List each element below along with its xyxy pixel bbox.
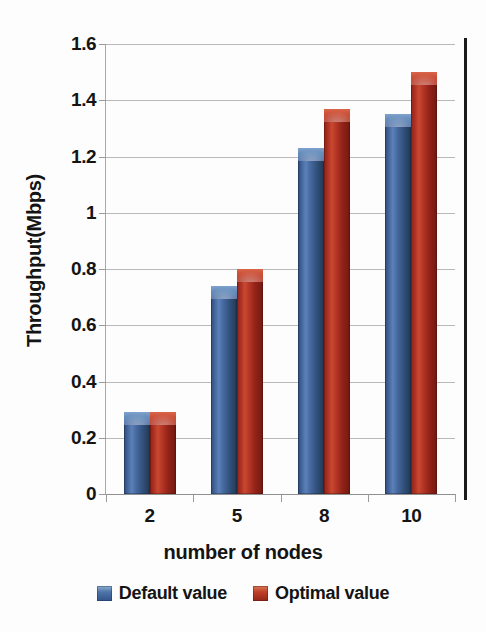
legend-label-default-value: Default value [119, 583, 227, 604]
bar-group [385, 44, 437, 494]
y-axis-tick-label: 1.6 [42, 33, 96, 55]
bar-body [298, 148, 324, 494]
y-axis-tick-label: 1.2 [42, 146, 96, 168]
bar-group [298, 44, 350, 494]
bar-top-cap [150, 412, 176, 425]
bar-default-value-10[interactable] [385, 114, 411, 494]
y-axis-tick-label: 0.2 [42, 427, 96, 449]
y-axis-tick-label: 0.4 [42, 371, 96, 393]
x-axis-tick-label: 8 [319, 505, 329, 527]
x-axis-title: number of nodes [0, 541, 486, 564]
bar-optimal-value-8[interactable] [324, 109, 350, 494]
y-axis-tick-label: 0.8 [42, 258, 96, 280]
y-axis-tick-mark [99, 325, 106, 326]
bar-body [211, 286, 237, 494]
bar-top-cap [385, 114, 411, 127]
legend-item-optimal-value[interactable]: Optimal value [253, 583, 389, 604]
legend-item-default-value[interactable]: Default value [97, 583, 227, 604]
y-axis-tick-label: 0.6 [42, 314, 96, 336]
y-axis-tick-label: 0 [42, 483, 96, 505]
bar-top-cap [124, 412, 150, 425]
bar-body [411, 72, 437, 494]
legend-swatch-optimal-value [253, 586, 268, 601]
chart-legend: Default value Optimal value [0, 583, 486, 604]
x-axis-tick-label: 2 [145, 505, 155, 527]
y-axis-tick-label: 1 [42, 202, 96, 224]
bar-default-value-5[interactable] [211, 286, 237, 494]
bar-optimal-value-2[interactable] [150, 412, 176, 494]
chart-figure: Throughput(Mbps) 00.20.40.60.811.21.41.6… [0, 0, 486, 632]
bar-top-cap [324, 109, 350, 122]
bar-top-cap [411, 72, 437, 85]
y-axis-tick-mark [99, 157, 106, 158]
x-axis-tick-mark [368, 494, 369, 502]
right-axis-spine [464, 38, 467, 500]
x-axis-tick-mark [193, 494, 194, 502]
x-axis-tick-mark [281, 494, 282, 502]
bar-top-cap [237, 269, 263, 282]
x-axis-tick-label: 5 [232, 505, 242, 527]
y-axis-tick-mark [99, 269, 106, 270]
legend-swatch-default-value [97, 586, 112, 601]
plot-area [106, 44, 455, 494]
bar-top-cap [211, 286, 237, 299]
bar-group [124, 44, 176, 494]
y-axis-tick-label: 1.4 [42, 89, 96, 111]
y-axis-tick-mark [99, 100, 106, 101]
x-axis-tick-mark [455, 494, 456, 502]
x-axis-tick-label: 10 [401, 505, 421, 527]
legend-label-optimal-value: Optimal value [275, 583, 389, 604]
bar-optimal-value-5[interactable] [237, 269, 263, 494]
y-axis-tick-mark [99, 438, 106, 439]
bar-default-value-2[interactable] [124, 412, 150, 494]
y-axis-tick-mark [99, 494, 106, 495]
y-axis-tick-labels: 00.20.40.60.811.21.41.6 [42, 0, 96, 632]
bar-top-cap [298, 148, 324, 161]
y-axis-tick-mark [99, 44, 106, 45]
y-axis-tick-mark [99, 213, 106, 214]
bar-default-value-8[interactable] [298, 148, 324, 494]
bar-group [211, 44, 263, 494]
bar-body [385, 114, 411, 494]
bar-optimal-value-10[interactable] [411, 72, 437, 494]
bar-body [237, 269, 263, 494]
x-axis-tick-mark [106, 494, 107, 502]
y-axis-tick-mark [99, 382, 106, 383]
bar-body [324, 109, 350, 494]
